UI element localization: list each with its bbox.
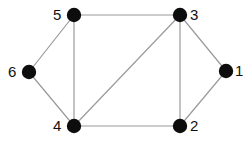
graph-edge [180,15,226,71]
graph-node-label-1: 1 [235,63,243,78]
graph-diagram: 123456 [0,0,251,143]
edge-layer [29,15,226,126]
graph-node-5[interactable] [67,8,81,22]
graph-node-4[interactable] [67,119,81,133]
graph-node-6[interactable] [22,65,36,79]
graph-node-label-5: 5 [53,7,61,22]
graph-node-label-4: 4 [53,118,61,133]
graph-edge [180,71,226,126]
graph-canvas [0,0,251,143]
graph-edge [74,15,180,126]
graph-node-3[interactable] [173,8,187,22]
graph-node-label-2: 2 [190,118,198,133]
graph-node-1[interactable] [219,64,233,78]
graph-edge [29,72,74,126]
graph-edge [29,15,74,72]
graph-node-label-6: 6 [8,64,16,79]
graph-node-label-3: 3 [190,7,198,22]
graph-node-2[interactable] [173,119,187,133]
